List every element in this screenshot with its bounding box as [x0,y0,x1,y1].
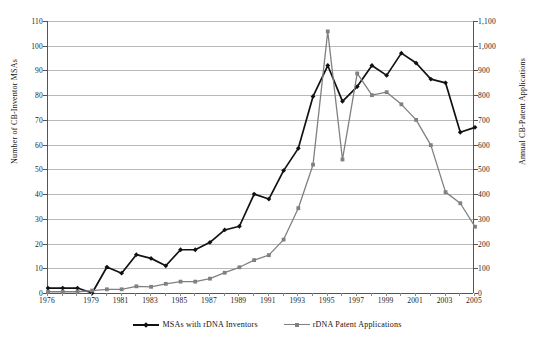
data-point-square [458,201,462,205]
series-line [48,31,475,291]
y-axis-left-tick-label: 40 [35,190,43,199]
legend-item[interactable]: rDNA Patent Applications [284,320,402,329]
data-point-square [296,206,300,210]
legend-item[interactable]: MSAs with rDNA Inventors [133,320,257,329]
y-axis-right-tick-label: 400 [478,190,490,199]
y-axis-left-tick-label: 20 [35,239,43,248]
data-point-square [385,90,389,94]
x-axis-tick-label: 1995 [319,296,335,305]
y-axis-right-tick-label: 700 [478,115,490,124]
y-axis-right-tick-label: 800 [478,91,490,100]
x-axis-tick-label: 1987 [201,296,217,305]
x-axis-tick-label: 1985 [172,296,188,305]
x-axis-tick-label: 1993 [289,296,305,305]
y-axis-left-tick-label: 110 [31,17,43,26]
data-point-square [164,282,168,286]
data-point-square [267,253,271,257]
x-axis-tick-label: 1991 [260,296,276,305]
y-axis-left-tick-label: 100 [31,41,43,50]
series-2 [46,29,477,293]
x-axis-tick-label: 1979 [83,296,99,305]
y-axis-left-tick-label: 60 [35,140,43,149]
x-axis-tick-label: 2005 [466,296,482,305]
x-axis-tick-label: 2003 [437,296,453,305]
data-point-square [473,225,477,229]
data-point-square [341,158,345,162]
data-point-square [370,93,374,97]
data-point-square [238,265,242,269]
y-axis-left-tick-label: 90 [35,66,43,75]
y-axis-right-tick-label: 1,100 [478,17,496,26]
legend-diamond-icon [133,320,159,329]
y-axis-right-tick-label: 100 [478,264,490,273]
legend-label: MSAs with rDNA Inventors [162,320,257,329]
y-axis-right-tick-label: 600 [478,140,490,149]
data-point-square [311,163,315,167]
data-point-square [399,102,403,106]
y-axis-left-tick-label: 50 [35,165,43,174]
x-axis-tick-label: 1997 [348,296,364,305]
chart-legend: MSAs with rDNA InventorsrDNA Patent Appl… [0,320,535,329]
data-point-square [193,280,197,284]
y-axis-right-tick-label: 500 [478,165,490,174]
y-axis-left-ticks: 0102030405060708090100110 [14,21,43,293]
data-point-square [326,29,330,33]
y-axis-right-tick-label: 200 [478,239,490,248]
data-point-square [120,287,124,291]
legend-square-icon [284,320,310,329]
data-point-square [429,143,433,147]
data-point-square [134,284,138,288]
data-point-square [252,258,256,262]
y-axis-left-tick-label: 80 [35,91,43,100]
y-axis-right-tick-label: 900 [478,66,490,75]
x-axis-tick-label: 1989 [231,296,247,305]
data-point-square [179,280,183,284]
data-point-square [414,118,418,122]
data-point-square [208,277,212,281]
data-point-diamond [473,125,478,130]
x-axis-tick-label: 1981 [113,296,129,305]
data-point-diamond [75,286,80,291]
data-point-square [223,271,227,275]
plot-area [47,21,474,293]
data-point-diamond [46,286,51,291]
data-point-square [149,285,153,289]
y-axis-left-tick-label: 30 [35,214,43,223]
x-axis-tick-label: 1983 [142,296,158,305]
data-point-diamond [458,130,463,135]
x-axis-tick-label: 1999 [378,296,394,305]
data-point-diamond [60,286,65,291]
y-axis-left-tick-label: 70 [35,115,43,124]
data-point-square [444,190,448,194]
y-axis-right-tick-label: 300 [478,214,490,223]
y-axis-left-tick-label: 10 [35,264,43,273]
series-1 [46,51,478,296]
data-series-layer [48,21,475,293]
chart-figure: Number of CB-Inventor MSAs Annual CB-Pat… [0,0,535,344]
data-point-diamond [443,80,448,85]
y-axis-right-title: Annual CB-Patent Applications [518,37,527,187]
legend-label: rDNA Patent Applications [313,320,402,329]
y-axis-right-tick-label: 1,000 [478,41,496,50]
x-axis-ticks: 1976197919811983198519871989199119931995… [47,296,474,310]
y-axis-right-ticks: 01002003004005006007008009001,0001,100 [478,21,512,293]
x-axis-tick-label: 1976 [39,296,55,305]
data-point-square [282,238,286,242]
data-point-square [105,287,109,291]
x-axis-tick-label: 2001 [407,296,423,305]
data-point-square [355,72,359,76]
data-point-square [90,289,94,293]
